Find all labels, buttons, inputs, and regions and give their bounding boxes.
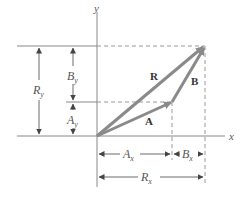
vectors: A B R [97,47,204,136]
Ay-label: Ay [66,113,78,129]
Bx-label: Bx [182,147,193,163]
dimension-Bx: Bx [174,147,203,163]
dimension-Ry: Ry [32,48,44,134]
vector-diagram: x y A B R Ry By [0,0,246,197]
vector-B [172,48,204,102]
dimension-Ay: Ay [66,104,78,134]
vector-B-label: B [191,75,199,87]
vector-A-label: A [145,115,153,127]
dimension-Rx: Rx [99,170,203,186]
vector-R-label: R [150,70,159,82]
By-label: By [67,69,78,85]
reference-lines [17,46,205,185]
vector-A [97,103,171,137]
dimension-Ax: Ax [99,147,170,163]
y-axis-label: y [93,2,99,14]
dimension-By: By [67,48,78,100]
x-axis-label: x [228,130,234,142]
Rx-label: Rx [140,170,152,186]
Ax-label: Ax [122,147,134,163]
Ry-label: Ry [32,83,44,99]
